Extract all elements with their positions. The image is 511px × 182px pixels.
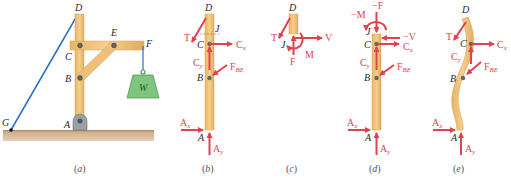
force-fbe-arrow — [467, 62, 481, 74]
force-v-label: V — [325, 32, 333, 43]
force-fbe-label: FBE — [397, 61, 412, 74]
caption-c: (c) — [286, 163, 297, 175]
point-a: A — [197, 132, 205, 143]
point-j: J — [281, 39, 286, 50]
force-m-label: M — [305, 49, 314, 60]
cable-gd — [11, 14, 78, 130]
force-fbe-arrow — [380, 65, 394, 75]
force-cx-label: Cx — [497, 39, 508, 52]
force-cy-label: Cy — [360, 57, 371, 70]
force-f-label: F — [290, 56, 296, 67]
force-neg-m-label: −M — [351, 9, 366, 20]
point-d: D — [74, 2, 83, 13]
caption-e: (e) — [453, 163, 464, 175]
pin-b — [78, 76, 83, 81]
point-c: C — [364, 39, 371, 50]
force-fbe-label: FBE — [230, 61, 245, 74]
force-cx-label: Cx — [236, 39, 247, 52]
caption-d: (d) — [369, 163, 381, 175]
post-segment-dj — [289, 14, 298, 34]
point-b: B — [65, 73, 71, 84]
force-ay-label: Ay — [465, 143, 476, 156]
force-ax-label: Ax — [180, 117, 191, 130]
panel-a: W D E F C B A G (a) — [2, 2, 159, 175]
force-fbe-arrow — [213, 65, 227, 75]
point-e: E — [110, 27, 117, 38]
anchor-g — [9, 128, 13, 132]
force-ay-label: Ay — [213, 143, 224, 156]
point-d: D — [288, 2, 297, 13]
moment-m-arrow — [287, 33, 303, 49]
force-t-arrow — [279, 18, 290, 38]
force-fbe-label: FBE — [484, 61, 499, 74]
panel-b: D J C B A T Cx Cy FBE Ax Ay (b) — [180, 2, 247, 175]
pin-e — [112, 43, 117, 48]
point-c: C — [197, 39, 204, 50]
panel-d: −M −F −V J C B A Cx Cy FBE Ax Ay (d) — [347, 0, 417, 175]
point-j: J — [366, 26, 371, 37]
caption-a: (a) — [74, 163, 86, 175]
pin-b — [461, 76, 465, 80]
weight-hook — [141, 70, 145, 74]
caption-b: (b) — [202, 163, 214, 175]
point-c: C — [65, 51, 72, 62]
point-a: A — [450, 132, 458, 143]
point-f: F — [145, 38, 153, 49]
point-g: G — [2, 117, 9, 128]
point-b: B — [197, 72, 203, 83]
post-member — [205, 14, 214, 130]
point-a: A — [63, 119, 71, 130]
frame-free-body-diagram: W D E F C B A G (a) D J C B A T Cx Cy FB… — [0, 0, 511, 182]
point-b: B — [450, 73, 456, 84]
point-c: C — [460, 38, 467, 49]
pin-b — [207, 76, 211, 80]
force-t-label: T — [184, 32, 190, 43]
force-ax-label: Ax — [432, 117, 443, 130]
point-b: B — [364, 72, 370, 83]
force-ax-label: Ax — [347, 117, 358, 130]
point-a: A — [364, 132, 372, 143]
force-ay-label: Ay — [380, 143, 391, 156]
force-neg-f-label: −F — [372, 0, 384, 11]
force-cy-label: Cy — [193, 57, 204, 70]
panel-c: D J T V M F (c) — [271, 2, 333, 175]
point-d: D — [461, 4, 470, 15]
force-cy-label: Cy — [451, 51, 462, 64]
pin-a — [78, 119, 83, 124]
force-cx-label: Cx — [403, 41, 414, 54]
force-t-label: T — [446, 31, 452, 42]
panel-e: D C B A T Cx Cy FBE Ax Ay (e) — [432, 4, 508, 175]
point-d: D — [204, 2, 213, 13]
force-t-label: T — [271, 32, 277, 43]
post-ad — [75, 14, 84, 122]
ground — [3, 130, 154, 141]
point-j: J — [215, 23, 220, 34]
pin-b — [374, 76, 378, 80]
pin-c — [78, 43, 83, 48]
